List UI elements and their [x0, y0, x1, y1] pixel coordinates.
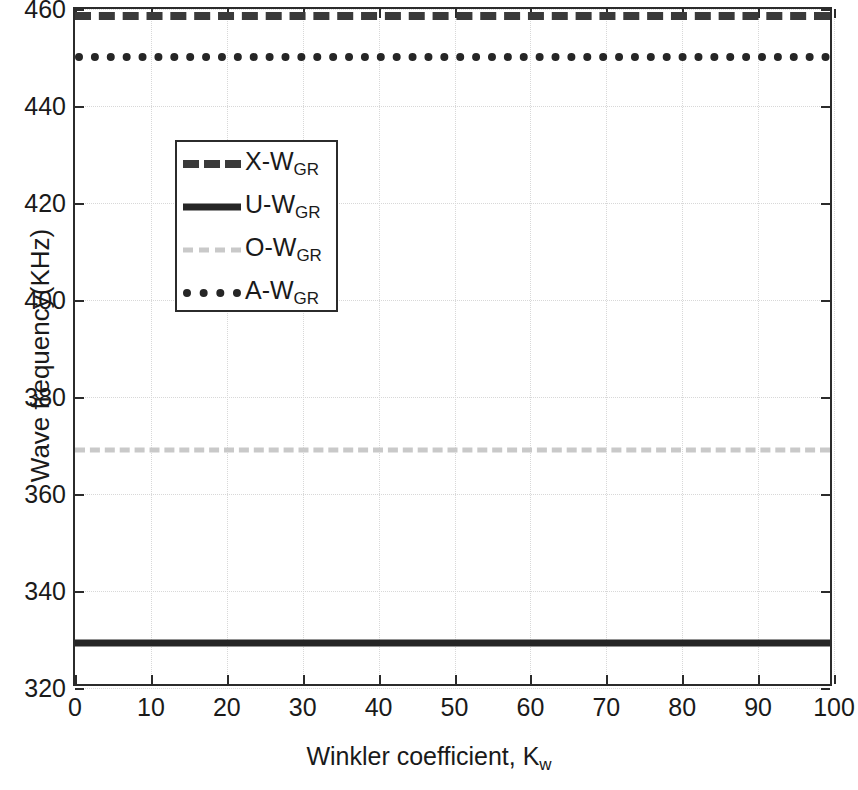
gridline-vertical — [227, 9, 229, 684]
gridline-vertical — [379, 9, 381, 684]
chart-figure: 320340360380400420440460 010203040506070… — [0, 0, 858, 790]
x-tick-mark — [606, 675, 608, 684]
legend-entry-subscript: GR — [294, 160, 320, 179]
x-tick-label: 30 — [289, 695, 317, 720]
y-tick-mark — [821, 106, 830, 108]
x-tick-mark — [834, 675, 836, 684]
legend-entry-subscript: GR — [296, 246, 322, 265]
gridline-vertical — [758, 9, 760, 684]
x-tick-label: 50 — [441, 695, 469, 720]
legend-entry-label: X-WGR — [245, 149, 319, 178]
x-tick-label: 0 — [68, 695, 82, 720]
chart-legend: X-WGRU-WGRO-WGRA-WGR — [175, 140, 338, 312]
x-tick-label: 60 — [516, 695, 544, 720]
x-tick-label: 10 — [137, 695, 165, 720]
series-line-a-wgr — [75, 53, 830, 61]
x-tick-label: 100 — [813, 695, 855, 720]
y-tick-mark — [821, 203, 830, 205]
x-axis-title: Winkler coefficient, Kw — [0, 742, 858, 775]
gridline-horizontal — [75, 106, 830, 108]
legend-entry[interactable]: A-WGR — [177, 271, 336, 314]
y-tick-mark — [821, 300, 830, 302]
gridline-vertical — [834, 9, 836, 684]
legend-entry-label: A-WGR — [245, 278, 319, 307]
gridline-horizontal — [75, 591, 830, 593]
legend-entry[interactable]: U-WGR — [177, 185, 336, 228]
series-line-o-wgr — [75, 448, 830, 453]
series-line-x-wgr — [75, 12, 830, 20]
x-tick-label: 90 — [744, 695, 772, 720]
gridline-horizontal — [75, 397, 830, 399]
gridline-horizontal — [75, 494, 830, 496]
x-tick-mark — [758, 675, 760, 684]
y-tick-mark — [75, 106, 84, 108]
gridline-horizontal — [75, 9, 830, 11]
legend-swatch-bar — [183, 160, 241, 168]
x-tick-mark — [75, 675, 77, 684]
gridline-vertical — [606, 9, 608, 684]
legend-line-swatch — [183, 158, 241, 170]
gridline-vertical — [303, 9, 305, 684]
legend-entry[interactable]: O-WGR — [177, 228, 336, 271]
x-axis-title-subscript: w — [539, 755, 551, 774]
y-tick-mark — [75, 688, 84, 690]
x-tick-mark — [379, 675, 381, 684]
x-tick-label: 20 — [213, 695, 241, 720]
y-tick-label: 460 — [24, 0, 66, 22]
legend-entry-subscript: GR — [294, 289, 320, 308]
y-tick-mark — [75, 494, 84, 496]
legend-entry-label: O-WGR — [245, 235, 322, 264]
gridline-vertical — [682, 9, 684, 684]
legend-line-swatch — [183, 287, 241, 299]
x-tick-mark — [834, 9, 836, 18]
gridline-vertical — [151, 9, 153, 684]
y-tick-mark — [75, 591, 84, 593]
x-tick-mark — [151, 675, 153, 684]
legend-line-swatch — [183, 244, 241, 256]
legend-swatch-bar — [183, 203, 241, 210]
gridline-vertical — [455, 9, 457, 684]
y-tick-mark — [75, 397, 84, 399]
y-tick-mark — [821, 688, 830, 690]
x-tick-label: 70 — [592, 695, 620, 720]
legend-swatch-bar — [183, 289, 241, 297]
y-tick-mark — [821, 397, 830, 399]
legend-entry-subscript: GR — [295, 203, 321, 222]
legend-swatch-bar — [183, 247, 241, 252]
x-tick-mark — [682, 675, 684, 684]
x-tick-mark — [227, 675, 229, 684]
plot-area: 320340360380400420440460 010203040506070… — [73, 7, 832, 686]
x-tick-mark — [530, 675, 532, 684]
x-tick-label: 80 — [668, 695, 696, 720]
y-tick-mark — [821, 9, 830, 11]
y-tick-mark — [821, 494, 830, 496]
legend-line-swatch — [183, 201, 241, 213]
series-line-u-wgr — [75, 640, 830, 647]
y-axis-title: Wave frequency(KHz) — [25, 26, 56, 686]
x-tick-mark — [455, 675, 457, 684]
y-tick-mark — [75, 203, 84, 205]
legend-entry-label: U-WGR — [245, 192, 320, 221]
x-tick-mark — [303, 675, 305, 684]
y-tick-mark — [75, 300, 84, 302]
legend-entry[interactable]: X-WGR — [177, 142, 336, 185]
y-tick-mark — [821, 591, 830, 593]
x-tick-label: 40 — [365, 695, 393, 720]
gridline-horizontal — [75, 688, 830, 690]
gridline-vertical — [530, 9, 532, 684]
